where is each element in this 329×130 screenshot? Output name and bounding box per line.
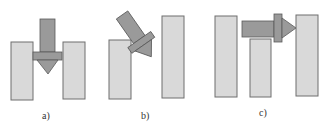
panel-a-label: a) [42, 110, 50, 121]
arrow-tool [242, 14, 296, 42]
panel-b-label: b) [141, 110, 149, 121]
right-pillar [162, 16, 184, 98]
panel-b [109, 7, 184, 99]
left-pillar [11, 42, 33, 100]
arrow-tool [33, 19, 62, 74]
arrow-shaft [242, 21, 274, 37]
arrow-head [37, 60, 58, 74]
left-pillar [109, 40, 131, 99]
panel-c [215, 14, 318, 97]
arrow-head [282, 18, 296, 38]
left-pillar [215, 16, 237, 97]
panel-a [11, 19, 85, 100]
arrow-crossbar [274, 14, 282, 42]
right-pillar [296, 15, 318, 96]
panel-c-label: c) [259, 107, 267, 118]
middle-pillar [250, 39, 271, 97]
arrow-shaft [40, 19, 55, 52]
right-pillar [63, 42, 85, 99]
arrow-crossbar [33, 52, 62, 60]
